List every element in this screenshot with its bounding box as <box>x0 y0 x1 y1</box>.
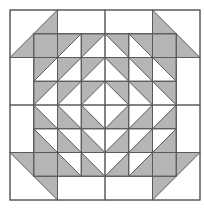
solid-square-2 <box>34 153 58 177</box>
quilt-block-diagram <box>0 0 204 208</box>
solid-square-1 <box>153 34 177 58</box>
solid-square-0 <box>34 34 58 58</box>
solid-square-3 <box>153 153 177 177</box>
